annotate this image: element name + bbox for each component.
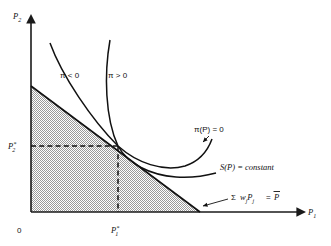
x-axis-label: P1	[307, 207, 316, 219]
pi-negative-label: π < 0	[60, 71, 80, 80]
figure-container: P2 P1 0 P*2 P*1 π < 0 π > 0 π(P) = 0 S(P…	[0, 0, 331, 246]
svg-text:Σ: Σ	[231, 193, 236, 202]
supply-curve-label: S(P) = constant	[220, 162, 275, 172]
y-axis-label: P2	[12, 11, 21, 23]
svg-text:P: P	[273, 192, 279, 202]
p2-star-tick-label: P*2	[7, 141, 16, 153]
pi-zero-pointer	[203, 136, 209, 142]
pi-positive-label: π > 0	[108, 71, 128, 80]
pi-zero-curve-label: π(P) = 0	[194, 125, 224, 134]
svg-text:=: =	[266, 193, 271, 202]
economics-diagram: P2 P1 0 P*2 P*1 π < 0 π > 0 π(P) = 0 S(P…	[0, 0, 331, 246]
budget-line-label: Σ wjPj = P	[231, 192, 280, 204]
origin-label: 0	[17, 226, 22, 235]
budget-line-pointer	[203, 199, 228, 206]
p1-star-tick-label: P*1	[110, 225, 119, 237]
svg-text:wjPj: wjPj	[240, 192, 255, 204]
